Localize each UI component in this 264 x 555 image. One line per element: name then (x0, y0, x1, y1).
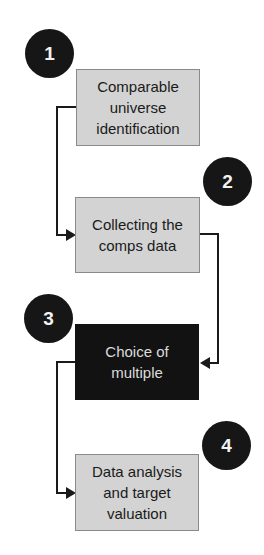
step-1-box: Comparable universe identification (76, 69, 200, 146)
step-1-line-3: identification (96, 118, 179, 139)
step-4-badge: 4 (202, 421, 251, 470)
connector-1-to-2 (57, 107, 76, 235)
step-4-line-1: Data analysis (92, 461, 182, 482)
step-4-line-3: valuation (92, 503, 182, 524)
step-3-line-1: Choice of (105, 341, 168, 362)
step-4-line-2: and target (92, 482, 182, 503)
connector-2-to-3 (200, 234, 218, 363)
step-1-line-2: universe (96, 97, 179, 118)
step-2-badge: 2 (203, 157, 252, 206)
step-2-line-2: comps data (92, 235, 183, 256)
step-2-line-1: Collecting the (92, 214, 183, 235)
arrowhead-into-step-3 (200, 357, 210, 369)
connector-3-to-4 (57, 362, 75, 493)
step-1-line-1: Comparable (96, 76, 179, 97)
step-3-line-2: multiple (105, 362, 168, 383)
step-2-box: Collecting the comps data (75, 197, 200, 273)
step-1-badge: 1 (25, 29, 74, 78)
step-3-box: Choice of multiple (75, 324, 199, 400)
step-3-badge: 3 (24, 294, 73, 343)
step-4-box: Data analysis and target valuation (75, 454, 199, 531)
